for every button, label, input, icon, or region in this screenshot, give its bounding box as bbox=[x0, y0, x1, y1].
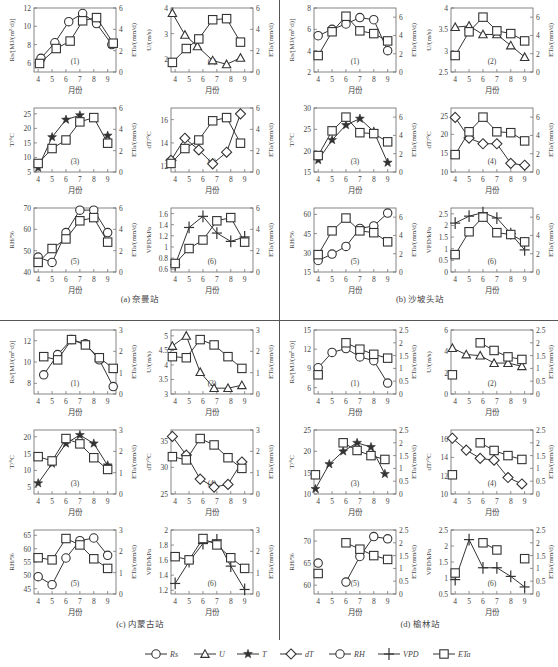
svg-text:(6): (6) bbox=[488, 257, 497, 266]
svg-text:60: 60 bbox=[304, 581, 312, 590]
svg-text:4: 4 bbox=[307, 47, 311, 56]
svg-text:T/°C: T/°C bbox=[288, 455, 296, 469]
svg-text:1: 1 bbox=[536, 364, 540, 373]
svg-text:5: 5 bbox=[330, 497, 334, 506]
svg-text:4: 4 bbox=[119, 125, 123, 134]
svg-text:月份: 月份 bbox=[68, 285, 83, 295]
svg-text:0: 0 bbox=[119, 68, 123, 77]
svg-text:8: 8 bbox=[229, 75, 233, 84]
svg-text:6: 6 bbox=[344, 397, 348, 406]
svg-text:4: 4 bbox=[453, 397, 457, 406]
svg-text:1: 1 bbox=[256, 369, 260, 378]
svg-text:7: 7 bbox=[358, 275, 362, 284]
svg-text:0: 0 bbox=[444, 268, 448, 277]
svg-text:5: 5 bbox=[467, 597, 471, 606]
svg-text:4: 4 bbox=[399, 131, 403, 140]
svg-text:5: 5 bbox=[187, 397, 191, 406]
svg-text:3: 3 bbox=[119, 526, 123, 535]
svg-text:5: 5 bbox=[467, 275, 471, 284]
svg-text:月份: 月份 bbox=[485, 185, 500, 195]
svg-text:6: 6 bbox=[307, 384, 311, 393]
svg-text:60: 60 bbox=[304, 210, 312, 219]
subplot-2-1: 24680246456789月份Rs/[MJ/(m²·d)]ETa/(mm/d)… bbox=[288, 4, 418, 95]
svg-text:30: 30 bbox=[161, 463, 169, 472]
svg-text:6: 6 bbox=[344, 597, 348, 606]
svg-text:月份: 月份 bbox=[348, 607, 363, 617]
svg-text:6: 6 bbox=[119, 204, 123, 213]
svg-text:(3): (3) bbox=[71, 157, 80, 166]
svg-text:(4): (4) bbox=[488, 479, 497, 488]
svg-text:1.6: 1.6 bbox=[159, 210, 169, 219]
svg-text:T/°C: T/°C bbox=[8, 455, 16, 469]
svg-text:5: 5 bbox=[50, 497, 54, 506]
svg-text:9: 9 bbox=[243, 175, 247, 184]
svg-text:4: 4 bbox=[536, 131, 540, 140]
svg-text:5: 5 bbox=[330, 175, 334, 184]
svg-text:3: 3 bbox=[164, 30, 168, 39]
svg-text:0: 0 bbox=[119, 490, 123, 499]
svg-text:4: 4 bbox=[173, 597, 177, 606]
svg-text:16: 16 bbox=[161, 116, 169, 125]
svg-text:3: 3 bbox=[256, 426, 260, 435]
svg-text:9: 9 bbox=[386, 175, 390, 184]
svg-text:4.5: 4.5 bbox=[159, 346, 169, 355]
svg-text:9: 9 bbox=[386, 275, 390, 284]
svg-text:9: 9 bbox=[106, 75, 110, 84]
svg-text:2: 2 bbox=[536, 150, 540, 159]
svg-text:9: 9 bbox=[243, 75, 247, 84]
svg-text:5: 5 bbox=[50, 597, 54, 606]
svg-text:9: 9 bbox=[106, 497, 110, 506]
svg-text:5: 5 bbox=[27, 483, 31, 492]
svg-text:ETa/(mm/d): ETa/(mm/d) bbox=[267, 22, 275, 57]
subplot-4-2: 024600.511.522.5456789月份U/(m/s)ETa/(mm/d… bbox=[425, 326, 555, 417]
svg-text:(5): (5) bbox=[71, 579, 80, 588]
svg-text:6: 6 bbox=[344, 275, 348, 284]
svg-text:2: 2 bbox=[256, 147, 260, 156]
svg-text:7: 7 bbox=[495, 497, 499, 506]
subplot-4-4: 1012141600.511.522.5456789月份dT/°CETa/(mm… bbox=[425, 426, 555, 517]
svg-text:0: 0 bbox=[119, 390, 123, 399]
legend: RsUTdTRHVPDETa bbox=[145, 648, 471, 660]
svg-text:ETa/(mm/d): ETa/(mm/d) bbox=[547, 22, 555, 57]
svg-text:8: 8 bbox=[509, 175, 513, 184]
svg-text:6: 6 bbox=[536, 113, 540, 122]
svg-text:4: 4 bbox=[36, 75, 40, 84]
svg-text:RH/%: RH/% bbox=[288, 553, 296, 571]
svg-text:(2): (2) bbox=[488, 57, 497, 66]
svg-text:(6): (6) bbox=[208, 257, 217, 266]
svg-text:5: 5 bbox=[467, 397, 471, 406]
svg-text:9: 9 bbox=[523, 275, 527, 284]
svg-text:9: 9 bbox=[386, 397, 390, 406]
horizontal-divider bbox=[0, 320, 558, 321]
svg-text:15: 15 bbox=[304, 168, 312, 177]
svg-text:1: 1 bbox=[399, 364, 403, 373]
svg-text:(3): (3) bbox=[71, 479, 80, 488]
svg-text:(1): (1) bbox=[351, 379, 360, 388]
svg-text:7: 7 bbox=[495, 597, 499, 606]
svg-text:ETa/(mm/d): ETa/(mm/d) bbox=[267, 444, 275, 479]
svg-text:月份: 月份 bbox=[485, 285, 500, 295]
svg-text:月份: 月份 bbox=[68, 407, 83, 417]
svg-text:6: 6 bbox=[64, 597, 68, 606]
svg-text:6: 6 bbox=[201, 75, 205, 84]
svg-text:7: 7 bbox=[358, 497, 362, 506]
subplot-2-2: 2.533.540246456789月份U/(m/s)ETa/(mm/d)(2) bbox=[425, 4, 555, 95]
svg-text:(6): (6) bbox=[488, 579, 497, 588]
svg-text:9: 9 bbox=[243, 397, 247, 406]
svg-text:70: 70 bbox=[304, 537, 312, 546]
svg-text:9: 9 bbox=[386, 597, 390, 606]
svg-text:月份: 月份 bbox=[205, 407, 220, 417]
svg-text:1: 1 bbox=[444, 245, 448, 254]
svg-text:6: 6 bbox=[64, 175, 68, 184]
svg-text:0: 0 bbox=[536, 68, 540, 77]
svg-text:月份: 月份 bbox=[485, 507, 500, 517]
svg-text:月份: 月份 bbox=[68, 85, 83, 95]
svg-text:9: 9 bbox=[243, 497, 247, 506]
svg-text:6: 6 bbox=[344, 175, 348, 184]
svg-text:8: 8 bbox=[509, 397, 513, 406]
svg-text:U/(m/s): U/(m/s) bbox=[425, 28, 433, 50]
svg-text:1: 1 bbox=[119, 369, 123, 378]
svg-text:4: 4 bbox=[316, 497, 320, 506]
svg-text:1: 1 bbox=[119, 569, 123, 578]
svg-text:2: 2 bbox=[119, 347, 123, 356]
